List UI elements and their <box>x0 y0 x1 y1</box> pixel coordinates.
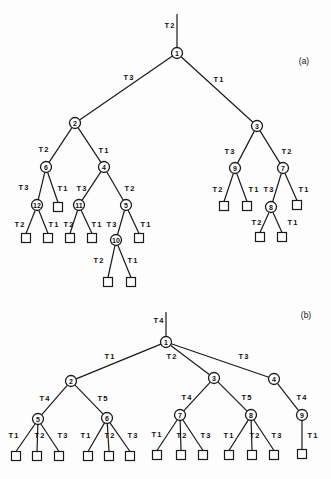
edge-label: T2 <box>213 185 224 194</box>
edge-label: T2 <box>177 431 188 440</box>
edge-label: T1 <box>152 430 163 439</box>
tree-edge <box>238 131 255 163</box>
tree-edge <box>273 212 282 232</box>
edge-label: T3 <box>239 352 250 361</box>
leaf-square-icon <box>248 451 257 460</box>
node-id: 8 <box>249 412 253 419</box>
tree-diagram-b: T4T1T2T3T4T5T4T5T4T1T2T3T1T2T3T1T2T3T1T2… <box>9 310 319 461</box>
leaf-square-icon <box>220 202 229 211</box>
node-id: 2 <box>69 378 73 385</box>
tree-node: 11 <box>74 200 85 211</box>
root-edge-label: T2 <box>165 21 176 30</box>
tree-edge <box>81 210 92 233</box>
leaf-square-icon <box>44 234 53 243</box>
tree-node: 8 <box>246 410 257 421</box>
node-id: 6 <box>44 164 48 171</box>
node-id: 4 <box>102 164 106 171</box>
edge-label: T2 <box>252 218 263 227</box>
edge-label: T1 <box>92 220 103 229</box>
leaf-square-icon <box>243 202 252 211</box>
node-id: 10 <box>112 237 120 244</box>
tree-edge <box>260 131 280 164</box>
tree-node: 2 <box>70 118 81 129</box>
tree-edge <box>38 172 44 199</box>
edge-label: T1 <box>214 75 225 84</box>
leaf-square-icon <box>298 450 307 459</box>
leaf-square-icon <box>126 452 135 461</box>
edge-label: T1 <box>224 431 235 440</box>
node-id: 1 <box>164 339 168 346</box>
edge-label: T1 <box>249 185 260 194</box>
node-id: 5 <box>124 202 128 209</box>
tree-edge <box>80 56 173 120</box>
edge-label: T1 <box>9 431 20 440</box>
leaf-square-icon <box>12 452 21 461</box>
tree-diagram-figure: T2T3T1T2T1T3T1T3T2T2T1T2T1T3T1T2T1T3T2T2… <box>0 0 331 479</box>
leaf-square-icon <box>225 451 234 460</box>
node-id: 3 <box>255 123 259 130</box>
edge-label: T2 <box>125 184 136 193</box>
tree-diagrams-svg: T2T3T1T2T1T3T1T3T2T2T1T2T1T3T1T2T1T3T2T2… <box>0 0 331 479</box>
tree-node: 3 <box>252 121 263 132</box>
edge-label: T3 <box>201 431 212 440</box>
tree-edge <box>128 210 139 233</box>
edge-label: T3 <box>124 73 135 82</box>
tree-edge <box>277 383 298 410</box>
tree-edge <box>108 245 115 277</box>
edge-label: T3 <box>264 185 275 194</box>
node-id: 7 <box>178 412 182 419</box>
edge-label: T3 <box>225 147 236 156</box>
edge-label: T4 <box>182 393 193 402</box>
leaf-square-icon <box>105 452 114 461</box>
edge-label: T1 <box>81 431 92 440</box>
edge-label: T4 <box>297 393 308 402</box>
node-id: 4 <box>272 376 276 383</box>
tree-edge <box>118 210 125 234</box>
leaf-square-icon <box>153 451 162 460</box>
tree-node: 2 <box>66 376 77 387</box>
tree-edge <box>76 344 161 379</box>
tree-node: 4 <box>99 162 110 173</box>
leaf-square-icon <box>54 203 63 212</box>
tree-edge <box>49 128 72 163</box>
tree-edge <box>237 173 247 201</box>
tree-node: 5 <box>33 414 44 425</box>
edge-label: T1 <box>49 220 60 229</box>
leaf-square-icon <box>66 234 75 243</box>
node-id: 7 <box>281 165 285 172</box>
node-id: 9 <box>233 165 237 172</box>
tree-node: 3 <box>209 373 220 384</box>
edge-label: T3 <box>128 431 139 440</box>
tree-node: 7 <box>278 163 289 174</box>
leaf-square-icon <box>55 452 64 461</box>
node-id: 3 <box>212 375 216 382</box>
edge-label: T1 <box>299 185 310 194</box>
edge-label: T2 <box>35 431 46 440</box>
leaf-square-icon <box>84 452 93 461</box>
tree-edge <box>26 210 35 233</box>
edge-label: T2 <box>64 220 75 229</box>
leaf-square-icon <box>33 452 42 461</box>
tree-edge <box>285 173 297 200</box>
tree-edge <box>78 128 101 163</box>
edge-label: T2 <box>39 145 50 154</box>
edge-label: T2 <box>94 256 105 265</box>
tree-node: 7 <box>175 410 186 421</box>
tree-edge <box>181 57 253 123</box>
edge-label: T2 <box>167 352 178 361</box>
edge-label: T1 <box>141 220 152 229</box>
edge-label: T1 <box>58 184 69 193</box>
edge-label: T1 <box>308 431 319 440</box>
leaf-square-icon <box>127 278 136 287</box>
leaf-square-icon <box>270 451 279 460</box>
edge-label: T2 <box>15 220 26 229</box>
edge-label: T1 <box>105 352 116 361</box>
leaf-square-icon <box>104 278 113 287</box>
leaf-square-icon <box>199 451 208 460</box>
tree-diagram-a: T2T3T1T2T1T3T1T3T2T2T1T2T1T3T1T2T1T3T2T2… <box>15 14 310 287</box>
edge-label: T3 <box>58 431 69 440</box>
edge-label: T5 <box>242 393 253 402</box>
edge-label: T2 <box>250 431 261 440</box>
node-id: 12 <box>33 202 41 209</box>
panel-label: (b) <box>301 310 312 320</box>
